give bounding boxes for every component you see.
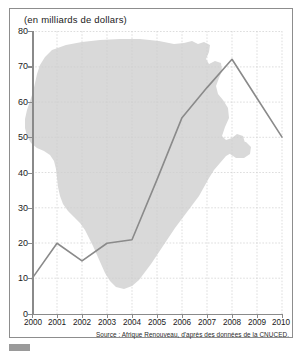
y-axis-labels: 80 70 60 50 40 30 20 10 0 bbox=[4, 0, 28, 354]
x-tick-label: 2004 bbox=[123, 318, 141, 327]
y-tick-mark bbox=[28, 102, 33, 103]
x-tick-label: 2009 bbox=[248, 318, 266, 327]
y-tick-mark bbox=[28, 137, 33, 138]
x-tick-label: 2006 bbox=[173, 318, 191, 327]
y-tick-label: 40 bbox=[6, 168, 28, 178]
chart-figure: (en milliards de dollars) bbox=[0, 0, 303, 354]
x-tick-label: 2005 bbox=[148, 318, 166, 327]
y-tick-label: 70 bbox=[6, 61, 28, 71]
plot-area bbox=[32, 31, 282, 314]
y-tick-mark bbox=[28, 208, 33, 209]
x-tick-label: 2002 bbox=[73, 318, 91, 327]
y-tick-label: 80 bbox=[6, 26, 28, 36]
source-note: Source : Afrique Renouveau, d'après des … bbox=[96, 331, 289, 338]
y-tick-mark bbox=[28, 31, 33, 32]
y-tick-label: 60 bbox=[6, 97, 28, 107]
x-tick-label: 2000 bbox=[24, 318, 42, 327]
y-tick-label: 10 bbox=[6, 273, 28, 283]
data-series-line bbox=[32, 31, 282, 314]
x-tick-label: 2001 bbox=[48, 318, 66, 327]
chart-title: (en milliards de dollars) bbox=[24, 14, 127, 25]
y-tick-mark bbox=[28, 243, 33, 244]
x-tick-label: 2010 bbox=[272, 318, 290, 327]
y-tick-label: 20 bbox=[6, 238, 28, 248]
x-tick-label: 2008 bbox=[223, 318, 241, 327]
y-tick-mark bbox=[28, 173, 33, 174]
y-tick-label: 50 bbox=[6, 132, 28, 142]
x-tick-label: 2003 bbox=[98, 318, 116, 327]
series-polyline bbox=[32, 59, 282, 278]
x-tick-label: 2007 bbox=[198, 318, 216, 327]
y-tick-label: 30 bbox=[6, 203, 28, 213]
y-tick-mark bbox=[28, 66, 33, 67]
y-tick-mark bbox=[28, 278, 33, 279]
